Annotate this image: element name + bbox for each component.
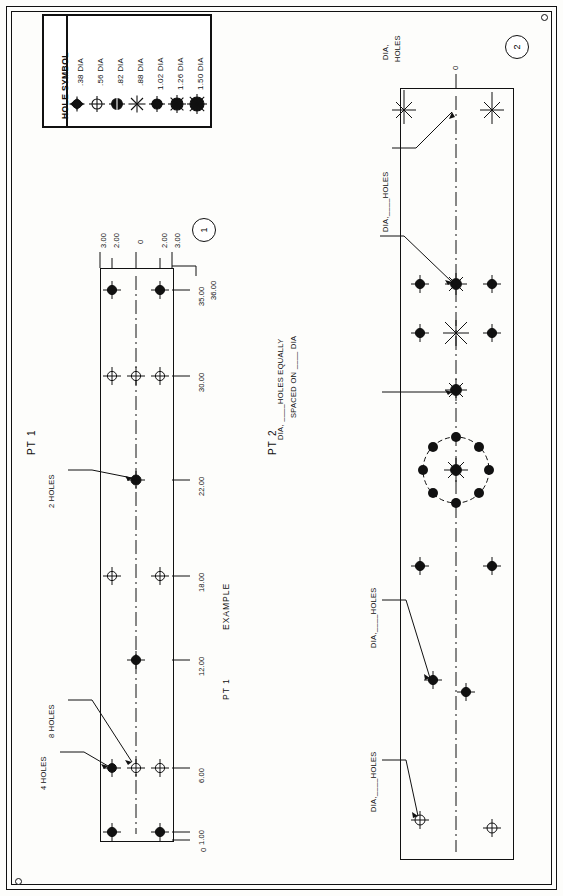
- callout-bolt-circle-line1: DIA, ____HOLES EQUALLY: [277, 338, 285, 440]
- callout-dia-holes-2: DIA,____HOLES: [370, 587, 378, 648]
- part2-geometry: [0, 0, 563, 896]
- callout-dia-holes-4-line2: HOLES: [394, 35, 402, 62]
- part2-zero-label: 0: [452, 66, 460, 70]
- callout-bolt-circle-line2: SPACED ON ____ DIA: [290, 336, 298, 418]
- callout-dia-holes-1: DIA,____HOLES: [382, 171, 390, 232]
- callout-dia-holes-3: DIA,____HOLES: [370, 751, 378, 812]
- callout-dia-holes-4-line1: DIA,: [382, 44, 390, 60]
- drawing-sheet: HOLE SYMBOL: [0, 0, 563, 896]
